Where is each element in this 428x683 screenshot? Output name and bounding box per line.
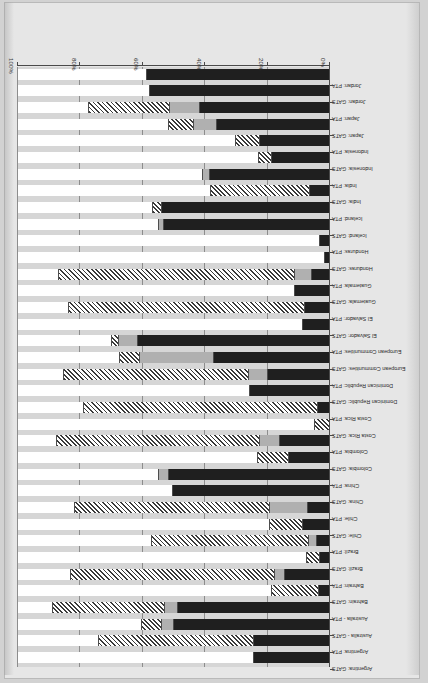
bar-segment-no-commitment-white — [18, 152, 258, 163]
bar-segment-full-commitment-black — [302, 319, 330, 330]
bar-segment-partial-commitment-gray — [158, 469, 168, 480]
bar-segment-limited-commitment-hatched — [235, 136, 259, 147]
scanned-page: 0%20%40%60%80%100% Argentina: GATSArgent… — [0, 0, 428, 683]
category-tick — [330, 385, 334, 386]
bar-australia-pta — [18, 602, 330, 613]
category-tick — [330, 235, 334, 236]
category-tick — [330, 135, 334, 136]
bar-segment-limited-commitment-hatched — [269, 519, 302, 530]
category-tick — [330, 269, 334, 270]
bar-bahrain-pta — [18, 569, 330, 580]
category-label: Guatemala: GATS — [332, 298, 406, 308]
bar-segment-no-commitment-white — [18, 319, 302, 330]
category-tick — [330, 552, 334, 553]
category-label: Iceland: GATS — [332, 231, 406, 241]
bar-segment-full-commitment-black — [304, 302, 330, 313]
bar-indonesia-gats — [18, 152, 330, 163]
category-label: Australia - PTA — [332, 614, 406, 624]
bar-segment-no-commitment-white — [18, 69, 146, 80]
x-tick — [267, 62, 268, 66]
bar-india-gats — [18, 186, 330, 197]
bar-segment-no-commitment-white — [18, 336, 111, 347]
bar-segment-partial-commitment-gray — [161, 619, 173, 630]
category-label: Colombia: GATS — [332, 464, 406, 474]
category-tick — [330, 285, 334, 286]
bar-segment-full-commitment-black — [309, 186, 330, 197]
bar-segment-full-commitment-black — [173, 619, 330, 630]
bar-segment-no-commitment-white — [18, 269, 58, 280]
category-tick — [330, 585, 334, 586]
value-axis — [17, 65, 330, 66]
bar-segment-full-commitment-black — [294, 286, 330, 297]
bar-segment-full-commitment-black — [137, 336, 330, 347]
bar-el-salvador-gats — [18, 319, 330, 330]
bar-segment-limited-commitment-hatched — [314, 419, 330, 430]
bar-segment-no-commitment-white — [18, 602, 52, 613]
bar-segment-partial-commitment-gray — [164, 602, 177, 613]
category-tick — [330, 519, 334, 520]
bar-segment-full-commitment-black — [271, 152, 330, 163]
x-tick — [204, 62, 205, 66]
category-label: Australia - GATS — [332, 631, 406, 641]
category-label: Brazil: PTA — [332, 548, 406, 558]
bar-chile-pta — [18, 502, 330, 513]
bar-india-pta — [18, 169, 330, 180]
category-label: Bahrain: PTA — [332, 581, 406, 591]
bar-segment-full-commitment-black — [288, 452, 330, 463]
bar-segment-full-commitment-black — [284, 569, 330, 580]
category-tick — [330, 652, 334, 653]
bar-segment-partial-commitment-gray — [294, 269, 311, 280]
bar-segment-no-commitment-white — [18, 519, 269, 530]
bar-segment-full-commitment-black — [172, 486, 330, 497]
bar-segment-partial-commitment-gray — [274, 569, 284, 580]
bar-segment-full-commitment-black — [316, 536, 330, 547]
bar-segment-no-commitment-white — [18, 219, 158, 230]
bar-jordan-gats — [18, 86, 330, 97]
bar-segment-partial-commitment-gray — [193, 119, 216, 130]
bar-japan-gats — [18, 119, 330, 130]
category-label: Jordan: GATS — [332, 98, 406, 108]
page-sheet: 0%20%40%60%80%100% Argentina: GATSArgent… — [4, 2, 420, 679]
bar-segment-full-commitment-black — [177, 602, 330, 613]
bar-colombia-gats — [18, 452, 330, 463]
bar-segment-no-commitment-white — [18, 369, 63, 380]
bar-segment-no-commitment-white — [18, 119, 168, 130]
bar-segment-limited-commitment-hatched — [306, 552, 319, 563]
bar-segment-full-commitment-black — [307, 502, 330, 513]
category-label: Costa Rica: PTA — [332, 414, 406, 424]
plot-area: 0%20%40%60%80%100% Argentina: GATSArgent… — [10, 6, 414, 679]
category-label: China: PTA — [332, 481, 406, 491]
category-axis — [329, 65, 330, 667]
bar-segment-full-commitment-black — [249, 386, 330, 397]
category-label: Chile: PTA — [332, 514, 406, 524]
bar-iceland-pta — [18, 202, 330, 213]
bar-brazil-gats — [18, 552, 330, 563]
bar-segment-limited-commitment-hatched — [88, 102, 169, 113]
bar-australia-gats — [18, 619, 330, 630]
x-tick-label: 0% — [321, 58, 328, 67]
category-tick — [330, 485, 334, 486]
bar-segment-no-commitment-white — [18, 386, 249, 397]
rotated-figure: 0%20%40%60%80%100% Argentina: GATSArgent… — [10, 6, 414, 679]
bar-segment-limited-commitment-hatched — [58, 269, 294, 280]
category-label: Indonesia: GATS — [332, 164, 406, 174]
bar-segment-full-commitment-black — [209, 169, 330, 180]
scan-shadow-left — [4, 2, 14, 675]
bar-segment-full-commitment-black — [199, 102, 330, 113]
bar-segment-no-commitment-white — [18, 469, 158, 480]
bar-segment-full-commitment-black — [267, 369, 330, 380]
category-label: Iceland: PTA — [332, 214, 406, 224]
x-tick — [142, 62, 143, 66]
category-label: European Communities: GATS — [332, 364, 406, 374]
bar-segment-no-commitment-white — [18, 502, 74, 513]
bar-segment-limited-commitment-hatched — [168, 119, 193, 130]
bar-segment-limited-commitment-hatched — [141, 619, 161, 630]
x-tick-label: 80% — [71, 58, 78, 70]
bar-segment-no-commitment-white — [18, 536, 151, 547]
bar-segment-no-commitment-white — [18, 552, 306, 563]
category-label: Chile: GATS — [332, 531, 406, 541]
category-tick — [330, 319, 334, 320]
category-label: India: PTA — [332, 181, 406, 191]
bar-segment-partial-commitment-gray — [269, 502, 307, 513]
bar-segment-full-commitment-black — [253, 652, 330, 663]
